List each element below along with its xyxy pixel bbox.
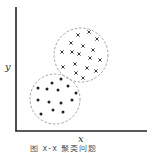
cluster-crosses-boundary [54,28,108,82]
dot-marker [52,109,55,112]
cross-marker [73,62,76,65]
cross-marker [81,44,84,47]
cross-marker [76,33,79,36]
dot-marker [60,102,63,105]
dot-marker [71,99,74,102]
dot-marker [60,78,63,81]
cluster-boundaries [30,28,108,124]
y-axis-label: y [5,61,11,72]
cross-marker [94,69,97,72]
cross-marker [70,50,73,53]
cross-marker [69,41,72,44]
cross-marker [85,66,88,69]
cross-marker [81,76,84,79]
cross-marker [77,52,80,55]
figure-caption: 图 x-x 聚类问题 [30,145,130,153]
dot-marker [62,111,65,114]
cross-marker [61,65,64,68]
cross-marker [87,30,90,33]
dot-marker [57,89,60,92]
dot-marker [46,88,49,91]
cross-marker [98,58,101,61]
dot-marker [48,101,51,104]
dot-marker [67,85,70,88]
dot-marker [51,82,54,85]
cross-marker [60,50,63,53]
cross-marker [74,71,77,74]
x-axis-label: x [78,133,84,144]
cross-marker [95,37,98,40]
dot-marker [37,99,40,102]
data-points [37,30,102,115]
cross-marker [88,56,91,59]
clustering-diagram [0,0,152,153]
dot-marker [40,113,43,116]
dot-marker [75,92,78,95]
cross-marker [91,48,94,51]
dot-marker [37,87,40,90]
